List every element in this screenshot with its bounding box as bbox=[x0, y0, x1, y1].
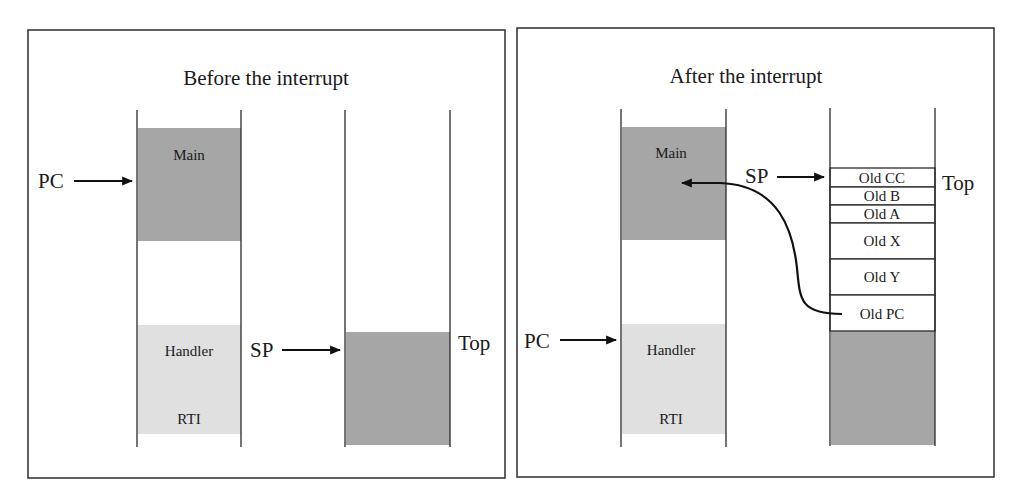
pc-pointer-after: PC bbox=[524, 329, 616, 353]
panel-after: After the interrupt Main Handler RTI PC bbox=[517, 28, 994, 477]
memory-column-before: Main Handler RTI bbox=[137, 110, 241, 447]
main-block bbox=[138, 128, 241, 241]
stack-column-after: Old CC Old B Old A Old X Old Y Old PC To… bbox=[830, 108, 974, 446]
sp-pointer-before: SP bbox=[250, 338, 340, 362]
pc-pointer-before: PC bbox=[38, 169, 132, 193]
handler-label: Handler bbox=[647, 342, 695, 358]
panel-after-title: After the interrupt bbox=[670, 64, 823, 88]
rti-label: RTI bbox=[659, 411, 682, 427]
stack-used-block bbox=[831, 331, 935, 445]
handler-label: Handler bbox=[165, 343, 213, 359]
stack-frame-label: Old CC bbox=[859, 170, 905, 186]
main-label: Main bbox=[655, 145, 687, 161]
top-label: Top bbox=[458, 331, 490, 355]
interrupt-diagram: Before the interrupt Main Handler RTI PC… bbox=[0, 0, 1020, 504]
memory-column-after: Main Handler RTI bbox=[621, 109, 726, 447]
panel-before: Before the interrupt Main Handler RTI PC… bbox=[28, 30, 505, 478]
pc-label: PC bbox=[524, 329, 550, 353]
sp-label: SP bbox=[250, 338, 273, 362]
stack-frame-label: Old PC bbox=[860, 306, 905, 322]
main-label: Main bbox=[173, 147, 205, 163]
panel-before-title: Before the interrupt bbox=[183, 66, 349, 90]
stack-frame-label: Old X bbox=[863, 233, 900, 249]
rti-label: RTI bbox=[177, 411, 200, 427]
top-label: Top bbox=[942, 171, 974, 195]
stack-column-before: Top bbox=[345, 110, 490, 447]
pc-label: PC bbox=[38, 169, 64, 193]
sp-label: SP bbox=[745, 164, 768, 188]
stack-frame-label: Old B bbox=[864, 188, 900, 204]
stack-used-block bbox=[346, 332, 450, 445]
stack-frame-label: Old A bbox=[864, 206, 900, 222]
sp-pointer-after: SP bbox=[745, 164, 824, 188]
stack-frame-label: Old Y bbox=[864, 269, 901, 285]
